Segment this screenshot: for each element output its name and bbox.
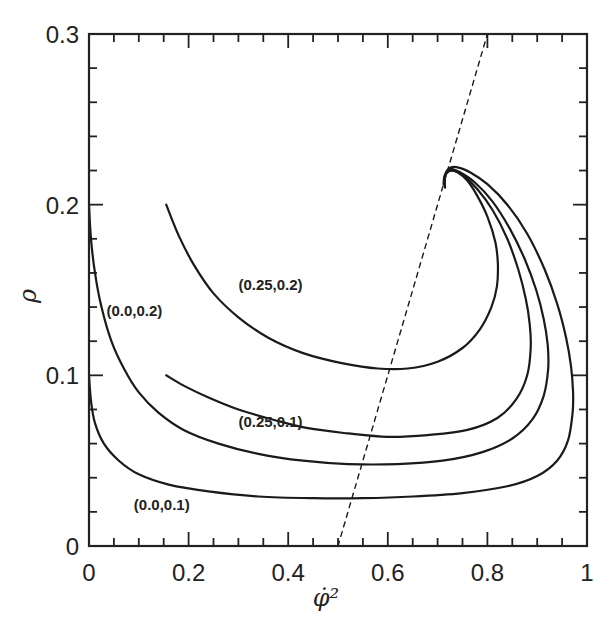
x-tick-label: 0.2 xyxy=(172,559,205,586)
curve-0-25-0-2 xyxy=(166,170,498,369)
curve-label: (0.25,0.2) xyxy=(238,276,302,293)
y-axis-title: ρ xyxy=(14,289,42,304)
y-tick-label: 0.1 xyxy=(46,362,79,389)
phase-plot: 00.20.40.60.8100.10.20.3 (0.0,0.1)(0.0,0… xyxy=(0,0,612,631)
x-axis-title: φ̇² xyxy=(313,584,339,612)
curve-label: (0.25,0.1) xyxy=(238,413,302,430)
curve-label: (0.0,0.2) xyxy=(106,302,162,319)
plot-frame xyxy=(89,34,587,546)
y-tick-label: 0 xyxy=(66,533,79,560)
reference-dashed-line xyxy=(338,34,487,546)
x-tick-label: 1 xyxy=(580,559,593,586)
x-tick-label: 0.8 xyxy=(471,559,504,586)
x-tick-label: 0.6 xyxy=(371,559,404,586)
y-tick-label: 0.3 xyxy=(46,21,79,48)
y-tick-label: 0.2 xyxy=(46,192,79,219)
x-tick-label: 0 xyxy=(82,559,95,586)
x-tick-label: 0.4 xyxy=(272,559,305,586)
curve-0-25-0-1 xyxy=(166,170,531,436)
axis-ticks xyxy=(89,34,587,546)
curves xyxy=(89,34,573,546)
curve-label: (0.0,0.1) xyxy=(134,496,190,513)
curve-0-0-0-1 xyxy=(89,167,573,499)
